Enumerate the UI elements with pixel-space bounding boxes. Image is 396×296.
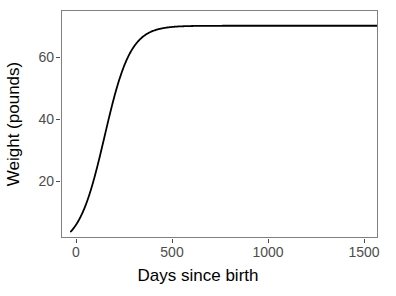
y-tick-mark <box>56 119 60 120</box>
y-tick-label: 60 <box>38 49 54 65</box>
x-tick-mark <box>172 239 173 243</box>
x-tick-mark <box>364 239 365 243</box>
y-axis-title: Weight (pounds) <box>4 62 24 186</box>
y-tick-label: 20 <box>38 173 54 189</box>
y-tick-label: 40 <box>38 111 54 127</box>
x-tick-mark <box>76 239 77 243</box>
growth-curve-line <box>71 26 377 232</box>
x-tick-mark <box>268 239 269 243</box>
plot-panel <box>61 10 378 238</box>
x-tick-label: 500 <box>160 244 183 260</box>
x-tick-label: 1000 <box>252 244 283 260</box>
growth-curve-svg <box>62 11 377 237</box>
y-tick-mark <box>56 57 60 58</box>
x-tick-label: 1500 <box>348 244 379 260</box>
y-tick-mark <box>56 181 60 182</box>
y-axis-title-container: Weight (pounds) <box>0 0 28 248</box>
x-tick-label: 0 <box>72 244 80 260</box>
chart-figure: Weight (pounds) 20 40 60 0 500 1000 1500… <box>0 0 396 296</box>
x-axis-title: Days since birth <box>0 266 396 286</box>
